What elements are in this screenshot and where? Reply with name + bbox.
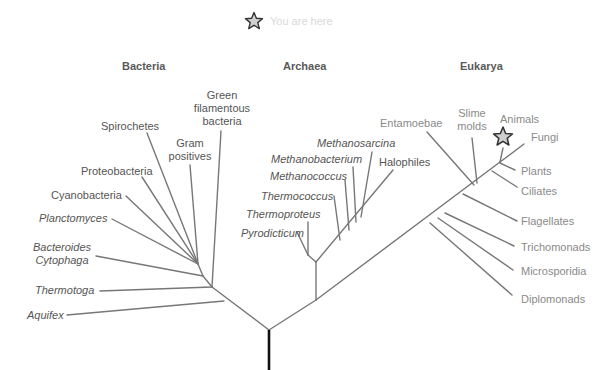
label-line: bacteria [190, 115, 254, 128]
branch-bacteria-inner [203, 276, 212, 287]
branch-aquifex [67, 301, 224, 315]
label-line: Green [190, 89, 254, 102]
branch-cyanobacteria [126, 196, 198, 264]
label-bacteroides-cytophaga: Bacteroides Cytophaga [30, 241, 94, 267]
label-microsporidia: Microsporidia [521, 265, 586, 278]
branch-diplomonads [430, 223, 512, 295]
label-green-filamentous-bacteria: Green filamentous bacteria [190, 89, 254, 128]
branch-slime-molds [472, 138, 477, 183]
label-line: Bacteroides [30, 241, 94, 254]
label-cyanobacteria: Cyanobacteria [51, 189, 122, 202]
branch-archaea-inner [308, 255, 316, 262]
domain-archaea-heading: Archaea [283, 60, 326, 72]
label-plants: Plants [521, 165, 552, 178]
label-methanosarcina: Methanosarcina [317, 137, 395, 150]
label-line: Slime [452, 107, 492, 120]
branch-bacteria-inner2 [198, 264, 203, 276]
domain-bacteria-heading: Bacteria [122, 60, 165, 72]
label-thermotoga: Thermotoga [35, 284, 94, 297]
star-icon [244, 11, 264, 31]
legend-text: You are here [270, 15, 333, 27]
label-line: Cytophaga [30, 254, 94, 267]
label-entamoebae: Entamoebae [380, 117, 442, 130]
label-slime-molds: Slime molds [452, 107, 492, 133]
domain-eukarya-heading: Eukarya [460, 60, 503, 72]
label-diplomonads: Diplomonads [521, 293, 585, 306]
label-proteobacteria: Proteobacteria [81, 165, 153, 178]
label-thermoproteus: Thermoproteus [246, 208, 321, 221]
branch-entamoebae [427, 132, 474, 185]
branch-planctomyces [112, 219, 198, 264]
label-ciliates: Ciliates [521, 185, 557, 198]
label-pyrodicticum: Pyrodicticum [241, 227, 304, 240]
label-halophiles: Halophiles [379, 156, 430, 169]
label-line: Gram [166, 137, 214, 150]
label-aquifex: Aquifex [27, 309, 64, 322]
label-fungi: Fungi [531, 131, 559, 144]
label-trichomonads: Trichomonads [521, 241, 590, 254]
legend: You are here [244, 10, 333, 32]
branch-flagellates [463, 194, 517, 221]
branch-thermococcus [334, 196, 340, 240]
label-methanococcus: Methanococcus [270, 170, 347, 183]
label-line: molds [452, 120, 492, 133]
branch-methanobacterium [353, 167, 356, 222]
label-methanobacterium: Methanobacterium [271, 153, 362, 166]
you-are-here-star-icon [494, 127, 513, 145]
branch-methanosarcina [361, 152, 372, 217]
label-thermococcus: Thermococcus [261, 190, 333, 203]
branch-ciliates [492, 171, 517, 187]
branch-gram-positives [190, 165, 198, 264]
label-line: positives [166, 150, 214, 163]
label-spirochetes: Spirochetes [101, 120, 159, 133]
branch-fungi [500, 144, 524, 162]
label-gram-positives: Gram positives [166, 137, 214, 163]
label-line: filamentous [190, 102, 254, 115]
branch-proteobacteria [142, 177, 198, 264]
label-animals: Animals [500, 113, 539, 126]
branch-bacteria-stem [212, 287, 269, 330]
label-flagellates: Flagellates [521, 215, 574, 228]
branch-thermotoga [100, 287, 212, 291]
label-planctomyces: Planctomyces [39, 212, 107, 225]
branch-methanococcus [345, 180, 349, 230]
branch-archaea-eukarya-stem [269, 300, 316, 330]
branch-plants [500, 163, 515, 170]
